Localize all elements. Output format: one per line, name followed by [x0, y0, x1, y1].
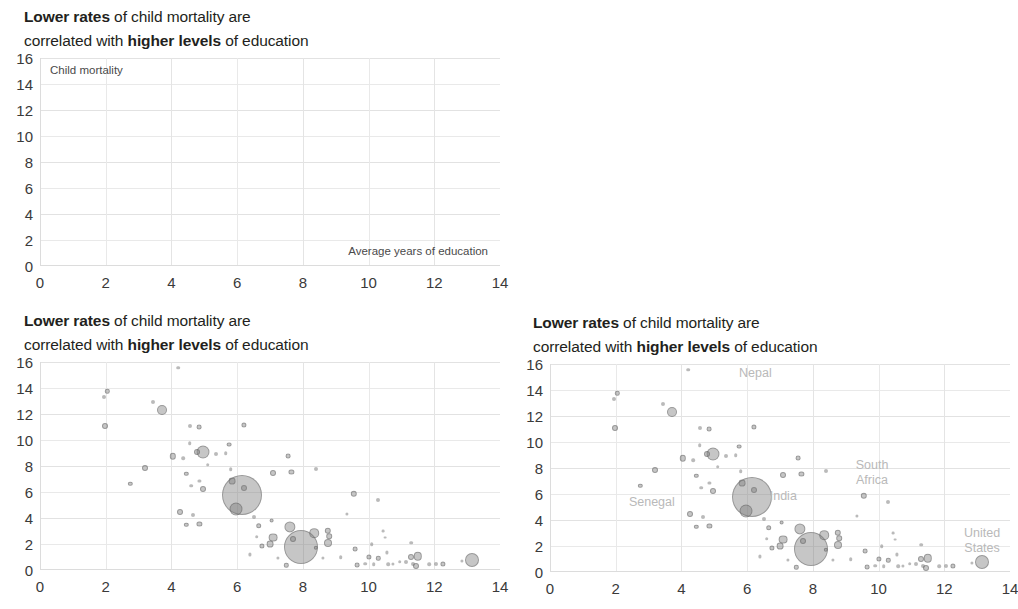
data-point-bubble	[382, 530, 385, 533]
title-emphasis-lower-rates: Lower rates	[24, 312, 110, 329]
data-point-bubble	[157, 405, 167, 415]
data-point-bubble	[950, 563, 955, 568]
data-point-bubble	[892, 532, 895, 535]
data-point-bubble	[615, 391, 619, 395]
gridline-vertical	[369, 362, 370, 570]
data-point-bubble	[944, 564, 948, 568]
data-point-bubble	[289, 469, 294, 474]
data-point-bubble	[796, 456, 801, 461]
data-point-bubble	[894, 538, 897, 541]
x-axis-line	[40, 265, 500, 266]
data-point-bubble	[249, 553, 252, 556]
data-point-bubble	[849, 557, 853, 561]
data-point-bubble	[177, 509, 183, 515]
data-point-bubble	[284, 563, 288, 567]
data-point-bubble	[176, 366, 180, 370]
data-point-bubble	[102, 395, 106, 399]
country-label-nepal: Nepal	[739, 366, 772, 381]
gridline-horizontal	[40, 162, 500, 163]
chart-panel-bottom-left: Lower rates of child mortality are corre…	[0, 306, 520, 609]
title-text-3: of education	[221, 336, 308, 353]
data-point-bubble	[191, 513, 195, 517]
title-emphasis-lower-rates: Lower rates	[533, 314, 619, 331]
data-point-bubble	[434, 562, 438, 566]
data-point-bubble	[707, 427, 712, 432]
y-axis-tick-label: 6	[25, 485, 33, 500]
data-point-bubble	[270, 470, 276, 476]
x-axis-tick-label: 0	[36, 579, 44, 594]
y-axis-tick-label: 12	[16, 407, 33, 422]
data-point-bubble	[229, 502, 242, 515]
data-point-bubble	[269, 518, 274, 523]
gridline-horizontal	[550, 468, 1010, 469]
data-point-bubble	[256, 523, 262, 529]
gridline-vertical	[747, 364, 748, 572]
x-axis-note: Average years of education	[348, 245, 488, 258]
y-axis-tick-label: 8	[25, 459, 33, 474]
title-text-1: of child mortality are	[110, 8, 251, 25]
data-point-bubble	[734, 453, 738, 457]
x-axis-tick-label: 8	[809, 581, 817, 596]
title-text-2: correlated with	[24, 336, 128, 353]
title-text-1: of child mortality are	[110, 312, 251, 329]
data-point-bubble	[680, 455, 686, 461]
data-point-bubble	[861, 493, 867, 499]
x-axis-tick-label: 2	[102, 579, 110, 594]
data-point-bubble	[184, 522, 188, 526]
gridline-horizontal	[40, 362, 500, 363]
data-point-bubble	[865, 564, 870, 569]
data-point-bubble	[184, 472, 188, 476]
x-axis-tick-label: 0	[546, 581, 554, 596]
data-point-bubble	[355, 562, 360, 567]
data-point-bubble	[314, 467, 318, 471]
data-point-bubble	[376, 498, 380, 502]
data-point-bubble	[413, 563, 419, 569]
data-point-bubble	[324, 539, 332, 547]
data-point-bubble	[687, 511, 693, 517]
gridline-horizontal	[40, 240, 500, 241]
title-text-3: of education	[730, 338, 817, 355]
data-point-bubble	[886, 558, 890, 562]
data-point-bubble	[834, 541, 842, 549]
data-point-bubble	[698, 426, 702, 430]
title-emphasis-lower-rates: Lower rates	[24, 8, 110, 25]
data-point-bubble	[372, 562, 376, 566]
title-emphasis-higher-levels: higher levels	[128, 336, 221, 353]
gridline-vertical	[616, 364, 617, 572]
data-point-bubble	[873, 564, 877, 568]
data-point-bubble	[694, 524, 698, 528]
chart-title: Lower rates of child mortality are corre…	[24, 5, 308, 53]
gridline-horizontal	[550, 442, 1010, 443]
gridline-horizontal	[40, 440, 500, 441]
chart-panel-bottom-right: Lower rates of child mortality are corre…	[520, 306, 1017, 609]
data-point-bubble	[914, 562, 918, 566]
gridline-vertical	[434, 58, 435, 266]
gridline-horizontal	[550, 494, 1010, 495]
x-axis-tick-label: 0	[36, 275, 44, 290]
data-point-bubble	[255, 535, 259, 539]
data-point-bubble	[876, 556, 881, 561]
data-point-bubble	[694, 474, 698, 478]
country-label-senegal: Senegal	[629, 495, 675, 510]
gridline-vertical	[171, 58, 172, 266]
title-text-3: of education	[221, 32, 308, 49]
x-axis-tick-label: 8	[299, 579, 307, 594]
country-label-india: India	[770, 488, 797, 503]
data-point-bubble	[766, 525, 772, 531]
gridline-horizontal	[40, 214, 500, 215]
data-point-bubble	[661, 402, 665, 406]
data-point-bubble	[181, 456, 185, 460]
data-point-bubble	[896, 564, 900, 568]
gridline-vertical	[434, 362, 435, 570]
y-axis-tick-label: 16	[526, 357, 543, 372]
data-point-bubble	[638, 483, 642, 487]
y-axis-tick-label: 10	[16, 433, 33, 448]
x-axis-tick-label: 12	[936, 581, 953, 596]
data-point-bubble	[277, 557, 280, 560]
data-point-bubble	[200, 486, 206, 492]
data-point-bubble	[923, 565, 929, 571]
data-point-bubble	[794, 565, 798, 569]
gridline-vertical	[237, 58, 238, 266]
gridline-horizontal	[40, 388, 500, 389]
plot-inner	[40, 58, 500, 266]
